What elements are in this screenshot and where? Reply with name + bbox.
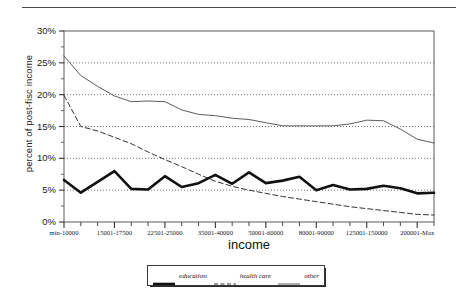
plot-frame [64,31,434,222]
legend-item: other [278,272,319,280]
chart-legend: educationhealth careother [147,265,325,286]
x-axis-tick-label: 80001-90000 [299,229,334,236]
x-axis-tick-label: 200001-Max [400,229,434,236]
page-root: percent of post-fisc income income 0%5%1… [0,0,466,299]
legend-swatch-health-care [214,273,236,279]
x-axis-tick-label: 125001-150000 [346,229,388,236]
x-axis-tick-label: 22501-25000 [147,229,182,236]
legend-item: health care [214,272,271,280]
legend-label: education [179,272,207,280]
x-axis-tick-label: 50001-60000 [248,229,283,236]
x-axis-tick-label: min-10000 [50,229,79,236]
legend-item: education [153,272,207,280]
legend-label: health care [240,272,271,280]
y-axis-tick-label: 25% [16,57,56,68]
legend-swatch-other [278,273,300,279]
y-axis-tick-label: 5% [16,184,56,195]
legend-swatch-education [153,273,175,279]
y-axis-tick-label: 15% [16,121,56,132]
x-axis-tick-label: 15001-17500 [97,229,132,236]
y-axis-tick-label: 30% [16,25,56,36]
y-axis-tick-label: 10% [16,152,56,163]
x-axis-tick-label: 35001-40000 [198,229,233,236]
plot-area [0,0,466,299]
y-axis-tick-label: 0% [16,216,56,227]
legend-label: other [304,272,319,280]
y-axis-tick-label: 20% [16,89,56,100]
chart-figure: percent of post-fisc income income 0%5%1… [0,0,466,299]
